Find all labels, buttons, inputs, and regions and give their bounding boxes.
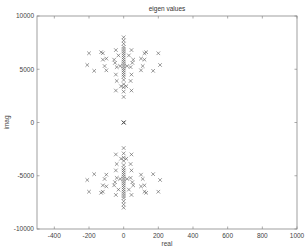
data-points [85, 36, 161, 210]
x-tick-label: 0 [122, 232, 126, 239]
x-axis: -400-20002004006008001000 [48, 16, 305, 239]
x-marker [129, 79, 133, 83]
x-marker [139, 57, 143, 61]
x-marker [118, 177, 122, 181]
x-marker [131, 58, 135, 62]
x-marker [157, 190, 161, 194]
x-marker [129, 176, 133, 180]
x-marker [105, 173, 109, 177]
x-marker [122, 166, 126, 170]
plot-area [37, 16, 297, 229]
x-marker [114, 89, 118, 93]
x-tick-label: -400 [48, 232, 61, 239]
x-marker [92, 69, 96, 73]
x-marker [122, 146, 126, 150]
x-marker [114, 193, 118, 197]
x-marker [115, 65, 119, 69]
x-marker [122, 121, 126, 125]
x-marker [130, 169, 134, 173]
x-marker [151, 172, 155, 176]
x-tick-label: 1000 [290, 232, 305, 239]
x-marker [101, 190, 105, 194]
figure: eigen values -400-20002004006008001000 -… [0, 0, 308, 250]
x-marker [127, 54, 131, 58]
y-tick-label: 10000 [16, 12, 34, 19]
x-marker [127, 188, 131, 192]
x-marker [114, 153, 118, 157]
x-marker [122, 82, 126, 86]
x-marker [157, 51, 161, 55]
x-tick-label: 600 [222, 232, 233, 239]
x-tick-label: 400 [188, 232, 199, 239]
x-marker [112, 184, 116, 188]
x-marker [87, 190, 91, 194]
x-marker [122, 90, 126, 94]
x-marker [105, 69, 109, 73]
x-marker [122, 152, 126, 156]
x-marker [122, 95, 126, 99]
x-marker [118, 64, 122, 68]
x-marker [122, 78, 126, 82]
x-marker [131, 184, 135, 188]
x-marker [105, 185, 109, 189]
x-marker [130, 193, 134, 197]
x-marker [139, 173, 143, 177]
x-marker [115, 176, 119, 180]
x-marker [117, 54, 121, 58]
x-marker [141, 64, 145, 68]
x-marker [85, 178, 89, 182]
x-marker [130, 48, 134, 52]
x-marker [143, 190, 147, 194]
x-marker [122, 36, 126, 40]
x-marker [151, 69, 155, 73]
x-marker [125, 177, 129, 181]
x-marker [122, 163, 126, 167]
x-marker [114, 48, 118, 52]
x-marker [85, 63, 89, 67]
x-marker [125, 64, 129, 68]
x-marker [122, 39, 126, 43]
x-marker [114, 169, 118, 173]
x-marker [122, 200, 126, 204]
x-marker [131, 180, 135, 184]
x-marker [115, 79, 119, 83]
x-marker [129, 65, 133, 69]
x-tick-label: 200 [153, 232, 164, 239]
y-axis: -10000-50000500010000 [14, 12, 297, 232]
y-tick-label: -5000 [17, 172, 34, 179]
x-tick-label: -200 [82, 232, 95, 239]
x-tick-label: 800 [257, 232, 268, 239]
y-axis-label: imag [3, 115, 11, 129]
x-marker [101, 184, 105, 188]
x-marker [122, 159, 126, 163]
x-marker [139, 185, 143, 189]
y-tick-label: 0 [30, 119, 34, 126]
x-marker [103, 177, 107, 181]
x-marker [130, 153, 134, 157]
x-marker [130, 73, 134, 77]
x-marker [139, 69, 143, 73]
x-marker [122, 75, 126, 79]
chart-title: eigen values [149, 5, 186, 13]
x-marker [87, 51, 91, 55]
x-marker [117, 188, 121, 192]
x-marker [158, 63, 162, 67]
x-marker [105, 57, 109, 61]
x-marker [101, 51, 105, 55]
x-marker [122, 42, 126, 46]
x-marker [130, 89, 134, 93]
x-marker [112, 58, 116, 62]
x-marker [113, 61, 117, 65]
x-marker [122, 203, 126, 207]
x-axis-label: real [162, 240, 173, 247]
x-marker [114, 73, 118, 77]
x-marker [158, 178, 162, 182]
x-marker [143, 51, 147, 55]
x-marker [129, 162, 133, 166]
y-tick-label: -10000 [14, 225, 35, 232]
x-marker [141, 177, 145, 181]
x-marker [131, 61, 135, 65]
x-marker [113, 180, 117, 184]
scatter-chart: eigen values -400-20002004006008001000 -… [0, 0, 308, 250]
x-marker [101, 58, 105, 62]
